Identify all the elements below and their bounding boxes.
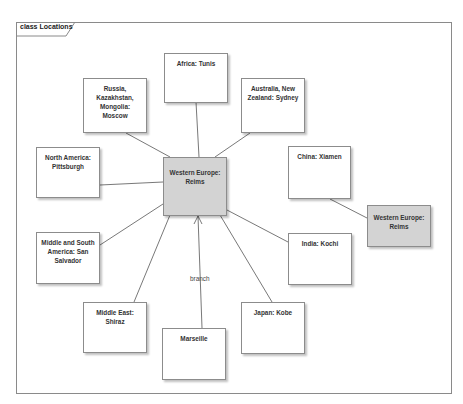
node-russia[interactable]: Russia, Kazakhstan, Mongolia: Moscow — [83, 78, 147, 133]
node-africa[interactable]: Africa: Tunis — [164, 53, 228, 103]
edge-russia — [126, 133, 170, 157]
edge-australia — [215, 133, 250, 157]
node-label: Western Europe: Reims — [368, 213, 430, 231]
node-label: Russia, Kazakhstan, Mongolia: Moscow — [84, 84, 146, 120]
edge-middle-south-america — [100, 204, 163, 245]
node-label: China: Xiamen — [289, 152, 350, 161]
node-label: North America: Pittsburgh — [37, 153, 99, 171]
node-india[interactable]: India: Kochi — [288, 233, 352, 285]
node-marseille[interactable]: Marseille — [162, 328, 226, 380]
edge-label-branch: branch — [190, 275, 210, 282]
node-label: Western Europe: Reims — [164, 168, 226, 186]
node-label: Middle East: Shiraz — [84, 308, 146, 326]
edge-japan — [220, 215, 272, 302]
edge-north-america — [100, 182, 163, 185]
node-western-europe-right[interactable]: Western Europe: Reims — [367, 205, 431, 247]
edge-middle-east — [134, 215, 170, 302]
node-china[interactable]: China: Xiamen — [288, 146, 351, 199]
node-australia[interactable]: Australia, New Zealand: Sydney — [241, 78, 305, 133]
node-japan[interactable]: Japan: Kobe — [241, 302, 305, 354]
node-label: Australia, New Zealand: Sydney — [242, 84, 304, 102]
edge-marseille — [198, 216, 202, 328]
edge-china — [330, 199, 367, 218]
connector-lines — [0, 0, 463, 404]
node-label: Middle and South America: San Salvador — [37, 238, 99, 265]
node-north-america[interactable]: North America: Pittsburgh — [36, 147, 100, 198]
node-middle-south-america[interactable]: Middle and South America: San Salvador — [36, 232, 100, 284]
node-middle-east[interactable]: Middle East: Shiraz — [83, 302, 147, 353]
node-label: Japan: Kobe — [242, 308, 304, 317]
node-label: India: Kochi — [289, 239, 351, 248]
edge-india — [227, 210, 288, 242]
node-western-europe-center[interactable]: Western Europe: Reims — [163, 157, 227, 216]
edge-africa — [196, 102, 199, 157]
node-label: Africa: Tunis — [165, 59, 227, 68]
node-label: Marseille — [163, 334, 225, 343]
